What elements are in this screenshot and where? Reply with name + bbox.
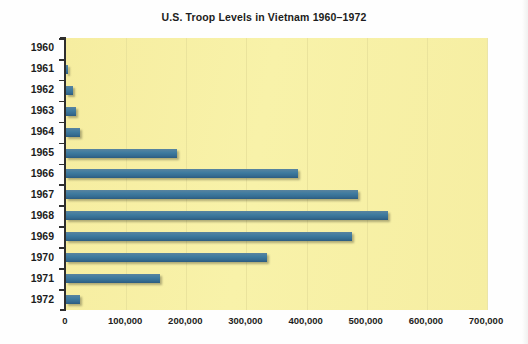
plot-area [65, 38, 487, 310]
y-axis-tick-label: 1969 [0, 230, 54, 242]
x-axis-tick-label: 700,000 [469, 315, 503, 326]
gridline [307, 38, 308, 310]
bar [66, 86, 73, 95]
y-axis-tick-mark [59, 289, 65, 291]
y-axis-tick-mark [59, 268, 65, 270]
x-axis-tick-label: 0 [62, 315, 67, 326]
x-axis-tick-label: 500,000 [349, 315, 383, 326]
x-axis-tick-label: 300,000 [228, 315, 262, 326]
bar [66, 211, 388, 220]
y-axis-tick-mark [59, 164, 65, 166]
bar [66, 232, 352, 241]
y-axis-tick-mark [59, 184, 65, 186]
y-axis-tick-mark [59, 205, 65, 207]
bar [66, 295, 80, 304]
y-axis-tick-label: 1960 [0, 41, 54, 53]
bar [66, 65, 68, 74]
x-axis-tick-label: 100,000 [108, 315, 142, 326]
y-axis-tick-mark [59, 122, 65, 124]
y-axis-tick-label: 1961 [0, 62, 54, 74]
x-axis-tick-label: 600,000 [409, 315, 443, 326]
y-axis-tick-label: 1967 [0, 188, 54, 200]
y-axis-tick-label: 1965 [0, 146, 54, 158]
y-axis-tick-mark [59, 247, 65, 249]
y-axis-tick-mark [59, 143, 65, 145]
bar [66, 169, 298, 178]
chart-title: U.S. Troop Levels in Vietnam 1960–1972 [0, 11, 528, 23]
y-axis-tick-label: 1962 [0, 83, 54, 95]
y-axis-tick-label: 1972 [0, 293, 54, 305]
y-axis-tick-mark [59, 226, 65, 228]
bar [66, 253, 267, 262]
gridline [427, 38, 428, 310]
y-axis-tick-mark [59, 59, 65, 61]
x-axis-tick-label: 200,000 [168, 315, 202, 326]
gridline [487, 38, 488, 310]
y-axis-tick-mark [59, 80, 65, 82]
bar [66, 107, 76, 116]
chart-container: U.S. Troop Levels in Vietnam 1960–1972 1… [0, 0, 528, 344]
x-axis-tick-label: 400,000 [288, 315, 322, 326]
gridline [367, 38, 368, 310]
bar [66, 128, 80, 137]
y-axis-tick-label: 1963 [0, 104, 54, 116]
page-edge-shadow [522, 0, 528, 344]
y-axis-tick-mark [59, 38, 65, 40]
bar [66, 190, 358, 199]
y-axis-line [64, 37, 66, 311]
bar [66, 274, 160, 283]
y-axis-tick-label: 1968 [0, 209, 54, 221]
y-axis-bottom-cap [60, 309, 66, 311]
y-axis-tick-mark [59, 101, 65, 103]
y-axis-tick-label: 1966 [0, 167, 54, 179]
y-axis-tick-label: 1964 [0, 125, 54, 137]
bar [66, 149, 177, 158]
y-axis-tick-label: 1970 [0, 251, 54, 263]
y-axis-tick-label: 1971 [0, 272, 54, 284]
